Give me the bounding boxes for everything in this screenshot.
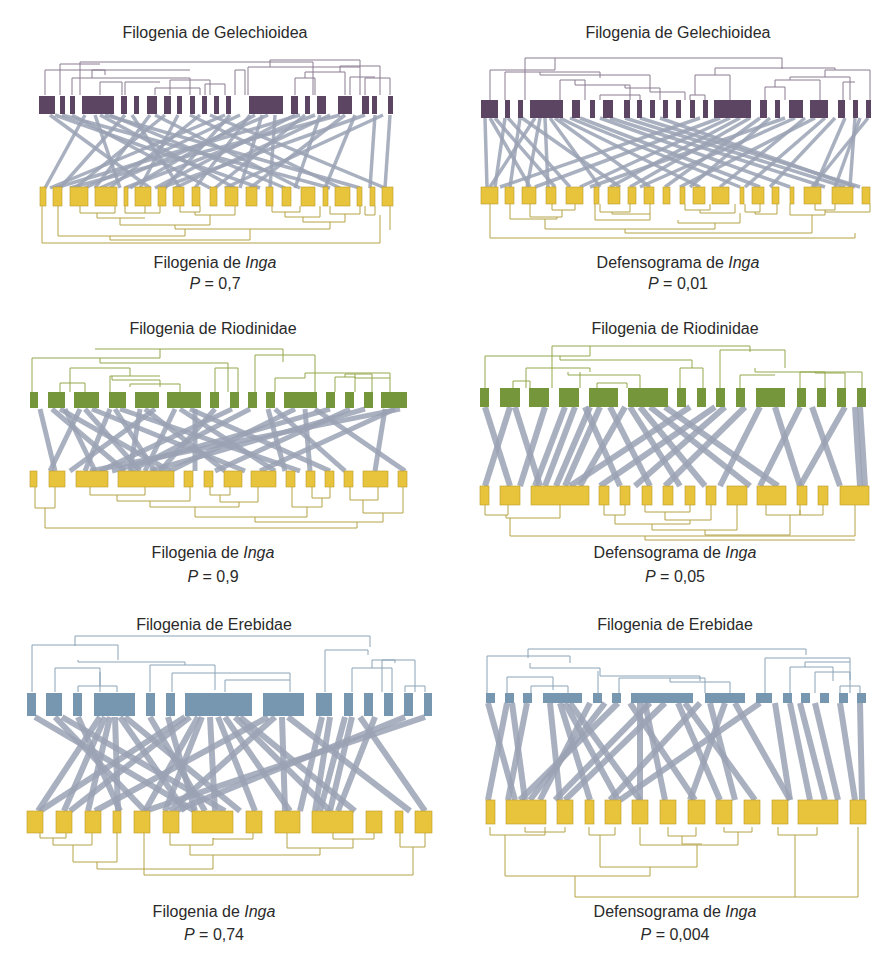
panel-title: Filogenia de Erebidae	[136, 616, 292, 633]
caption-genus: Inga	[243, 544, 274, 561]
panel-title: Filogenia de Gelechioidea	[122, 24, 307, 41]
panel-gelechioidea-defensogram: Filogenia de Gelechioidea	[481, 24, 871, 292]
top-dendrogram	[32, 636, 425, 692]
bottom-dendrogram	[35, 487, 403, 528]
association-links	[485, 118, 868, 187]
bottom-taxa-boxes	[480, 486, 869, 505]
caption-genus: Inga	[725, 544, 756, 561]
panel-caption: Filogenia de Inga	[152, 544, 275, 561]
bottom-dendrogram	[40, 833, 425, 875]
association-links	[45, 115, 390, 188]
caption-genus: Inga	[728, 254, 759, 271]
top-dendrogram	[490, 58, 870, 100]
bottom-dendrogram	[490, 827, 858, 897]
caption-prefix: Filogenia de	[153, 903, 245, 920]
panel-caption: Filogenia de Inga	[153, 903, 276, 920]
association-links	[485, 407, 865, 486]
p-number: = 0,05	[656, 568, 705, 585]
panel-title: Filogenia de Riodinidae	[591, 320, 758, 337]
top-dendrogram	[45, 60, 390, 95]
bottom-taxa-boxes	[27, 811, 432, 833]
bottom-taxa-boxes	[486, 800, 866, 824]
association-links	[488, 703, 862, 800]
p-value: P = 0,9	[187, 568, 238, 585]
caption-prefix: Filogenia de	[154, 254, 246, 271]
p-number: = 0,7	[200, 275, 241, 292]
caption-genus: Inga	[244, 903, 275, 920]
caption-prefix: Defensograma de	[597, 254, 729, 271]
p-label: P	[645, 568, 656, 585]
caption-prefix: Filogenia de	[152, 544, 244, 561]
bottom-dendrogram	[490, 204, 870, 238]
caption-prefix: Defensograma de	[594, 903, 726, 920]
top-taxa-boxes	[27, 693, 432, 716]
top-dendrogram	[485, 346, 862, 388]
caption-prefix: Defensograma de	[594, 544, 726, 561]
bottom-taxa-boxes	[30, 471, 407, 487]
top-taxa-boxes	[39, 96, 393, 114]
p-number: = 0,74	[195, 926, 244, 943]
p-value: P = 0,7	[189, 275, 240, 292]
p-value: P = 0,05	[645, 568, 705, 585]
p-number: = 0,9	[198, 568, 239, 585]
panel-title: Filogenia de Riodinidae	[129, 320, 296, 337]
caption-genus: Inga	[725, 903, 756, 920]
top-dendrogram	[32, 349, 390, 392]
p-label: P	[648, 275, 659, 292]
bottom-dendrogram	[485, 505, 855, 540]
top-taxa-boxes	[480, 388, 866, 407]
p-number: = 0,004	[651, 926, 709, 943]
top-taxa-boxes	[486, 693, 866, 703]
panel-caption: Defensograma de Inga	[597, 254, 760, 271]
association-links	[35, 717, 425, 811]
p-label: P	[184, 926, 195, 943]
p-value: P = 0,74	[184, 926, 244, 943]
panel-gelechioidea-phylogeny: Filogenia de Gelechioidea	[39, 24, 393, 292]
p-label: P	[189, 275, 200, 292]
figure-canvas: Filogenia de Gelechioidea	[0, 0, 891, 968]
panel-erebidae-defensogram: Filogenia de Erebidae	[486, 616, 866, 943]
bottom-dendrogram	[42, 206, 390, 243]
panel-riodinidae-phylogeny: Filogenia de Riodinidae	[30, 320, 407, 585]
panel-title: Filogenia de Erebidae	[597, 616, 753, 633]
top-taxa-boxes	[30, 392, 407, 408]
caption-genus: Inga	[245, 254, 276, 271]
panel-title: Filogenia de Gelechioidea	[585, 24, 770, 41]
p-number: = 0,01	[659, 275, 708, 292]
panel-caption: Defensograma de Inga	[594, 544, 757, 561]
p-value: P = 0,004	[641, 926, 710, 943]
association-links	[40, 409, 405, 471]
p-label: P	[187, 568, 198, 585]
top-dendrogram	[487, 649, 860, 693]
panel-riodinidae-defensogram: Filogenia de Riodinidae	[480, 320, 869, 585]
panel-caption: Filogenia de Inga	[154, 254, 277, 271]
panel-erebidae-phylogeny: Filogenia de Erebidae	[27, 616, 432, 943]
panel-caption: Defensograma de Inga	[594, 903, 757, 920]
top-taxa-boxes	[481, 100, 871, 118]
p-value: P = 0,01	[648, 275, 708, 292]
p-label: P	[641, 926, 652, 943]
bottom-taxa-boxes	[40, 187, 393, 206]
bottom-taxa-boxes	[481, 187, 870, 204]
